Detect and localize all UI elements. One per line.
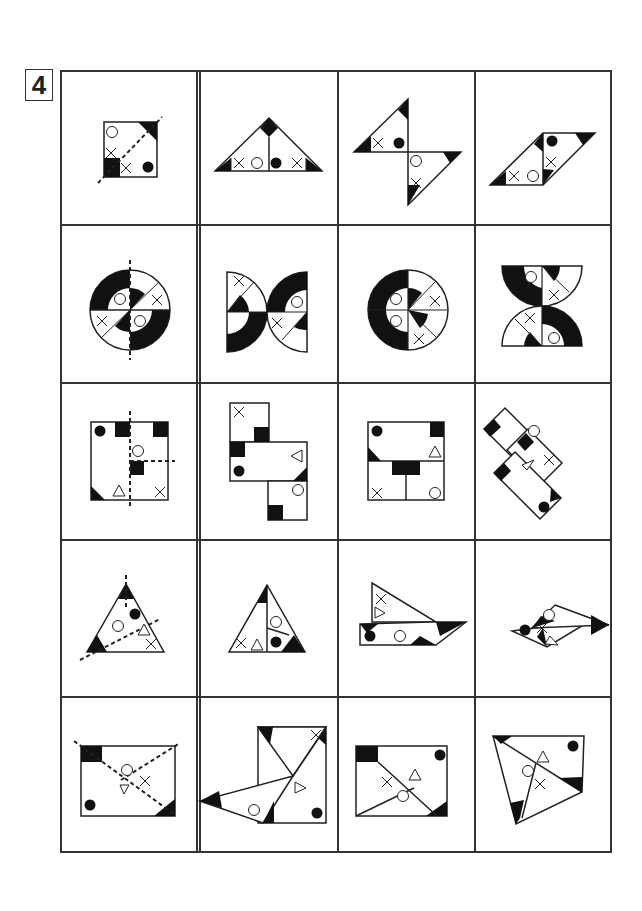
cell-r3c1[interactable] — [91, 411, 175, 507]
cell-r4c2[interactable] — [229, 585, 305, 652]
cell-r2c1[interactable] — [90, 260, 170, 360]
puzzle-grid — [60, 70, 612, 853]
cell-r4c3[interactable] — [360, 583, 466, 645]
cell-r1c4[interactable] — [490, 133, 595, 185]
cell-r5c4[interactable] — [493, 736, 584, 824]
cell-r3c2[interactable] — [230, 403, 307, 520]
cell-r3c3[interactable] — [368, 422, 444, 500]
puzzle-number: 4 — [32, 70, 46, 101]
cell-r5c3[interactable] — [356, 746, 447, 816]
cell-r5c1[interactable] — [74, 741, 180, 816]
cell-r2c2[interactable] — [227, 272, 307, 352]
puzzle-number-box: 4 — [25, 69, 53, 101]
cell-r4c1[interactable] — [80, 575, 164, 660]
cell-r4c4[interactable] — [512, 605, 609, 647]
cell-r1c3[interactable] — [354, 99, 461, 205]
cell-r1c1[interactable] — [98, 117, 162, 183]
cell-r5c2[interactable] — [200, 727, 326, 823]
cell-r1c2[interactable] — [215, 118, 322, 171]
puzzle-grid-svg — [60, 70, 612, 853]
cell-r3c4[interactable] — [484, 408, 562, 519]
cell-r2c3[interactable] — [368, 270, 448, 350]
cell-r2c4[interactable] — [502, 266, 582, 346]
